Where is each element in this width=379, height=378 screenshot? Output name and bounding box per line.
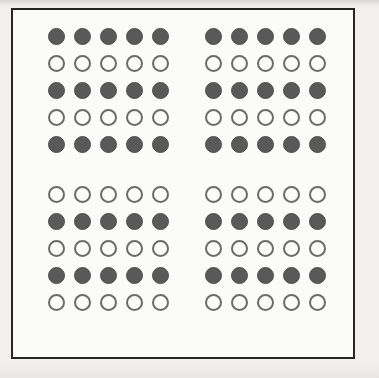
circle-cluster [200,262,330,289]
lattice-cell [226,235,252,262]
filled-circle-icon [48,28,65,45]
open-circle-icon [100,109,117,126]
lattice-cell [95,50,121,77]
circle-cluster [43,235,173,262]
filled-circle-icon [74,136,91,153]
filled-circle-icon [205,82,222,99]
filled-circle-icon [231,82,248,99]
circle-cluster [200,131,330,158]
lattice-cell [304,23,330,50]
open-circle-icon [74,55,91,72]
lattice-cell [278,77,304,104]
lattice-cell [95,289,121,316]
lattice-cell [278,262,304,289]
open-circle-icon [48,109,65,126]
filled-circle-icon [74,28,91,45]
filled-circle-icon [48,213,65,230]
lattice-cell [69,289,95,316]
lattice-cell [226,50,252,77]
lattice-cell [200,235,226,262]
lattice-cell [43,23,69,50]
figure-root [0,0,379,378]
lattice-cell [121,104,147,131]
filled-circle-icon [231,267,248,284]
lattice-cell [304,77,330,104]
lattice-cell [278,289,304,316]
scan-shading-top [0,0,379,6]
lattice-cell [200,181,226,208]
circle-cluster [200,181,330,208]
lattice-cell [304,262,330,289]
lattice-cell [69,235,95,262]
filled-circle-icon [309,136,326,153]
open-circle-icon [257,294,274,311]
filled-circle-icon [126,213,143,230]
filled-circle-icon [152,267,169,284]
circle-cluster [43,77,173,104]
lattice-cell [278,181,304,208]
filled-circle-icon [48,82,65,99]
circle-cluster [43,104,173,131]
circle-lattice [43,23,327,316]
open-circle-icon [48,55,65,72]
lattice-cell [252,104,278,131]
open-circle-icon [231,55,248,72]
open-circle-icon [48,186,65,203]
lattice-cell [226,23,252,50]
lattice-cell [226,77,252,104]
filled-circle-icon [283,136,300,153]
lattice-cell [252,181,278,208]
open-circle-icon [152,109,169,126]
lattice-cell [121,235,147,262]
open-circle-icon [100,240,117,257]
lattice-cell [121,262,147,289]
open-circle-icon [205,186,222,203]
filled-circle-icon [309,28,326,45]
figure-frame [11,8,355,359]
lattice-cell [95,104,121,131]
circle-cluster [43,289,173,316]
lattice-cell [43,50,69,77]
lattice-cell [278,23,304,50]
circle-cluster [200,77,330,104]
lattice-cell [304,208,330,235]
open-circle-icon [231,240,248,257]
open-circle-icon [283,186,300,203]
lattice-row [43,235,327,262]
open-circle-icon [152,294,169,311]
open-circle-icon [283,109,300,126]
open-circle-icon [231,109,248,126]
lattice-cell [252,208,278,235]
open-circle-icon [283,294,300,311]
lattice-cell [121,23,147,50]
filled-circle-icon [100,213,117,230]
filled-circle-icon [205,28,222,45]
lattice-cell [252,131,278,158]
lattice-cell [147,104,173,131]
filled-circle-icon [231,213,248,230]
lattice-cell [69,23,95,50]
lattice-cell [278,235,304,262]
lattice-cell [69,208,95,235]
open-circle-icon [152,186,169,203]
circle-cluster [200,50,330,77]
circle-cluster [200,208,330,235]
lattice-cell [226,181,252,208]
filled-circle-icon [126,136,143,153]
lattice-cell [147,131,173,158]
open-circle-icon [126,55,143,72]
filled-circle-icon [74,82,91,99]
lattice-cell [226,289,252,316]
open-circle-icon [309,294,326,311]
lattice-cell [200,23,226,50]
filled-circle-icon [126,82,143,99]
lattice-cell [147,235,173,262]
open-circle-icon [257,55,274,72]
lattice-cell [43,181,69,208]
filled-circle-icon [74,267,91,284]
filled-circle-icon [100,82,117,99]
lattice-cell [69,131,95,158]
open-circle-icon [231,294,248,311]
lattice-cell [69,104,95,131]
filled-circle-icon [257,136,274,153]
